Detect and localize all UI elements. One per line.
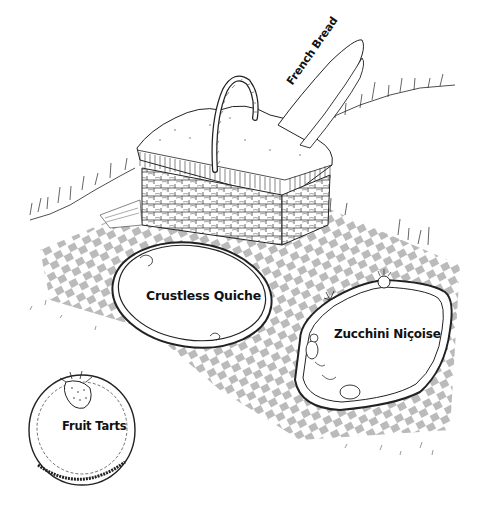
picnic-illustration: French Bread Crustless Quiche Zucchini N… [0, 0, 482, 515]
french-bread [278, 40, 364, 148]
fruit-tarts-label: Fruit Tarts [62, 419, 126, 433]
crustless-quiche-label: Crustless Quiche [146, 288, 261, 303]
illustration-canvas [0, 0, 482, 515]
zucchini-nicoise-label: Zucchini Niçoise [334, 327, 441, 341]
